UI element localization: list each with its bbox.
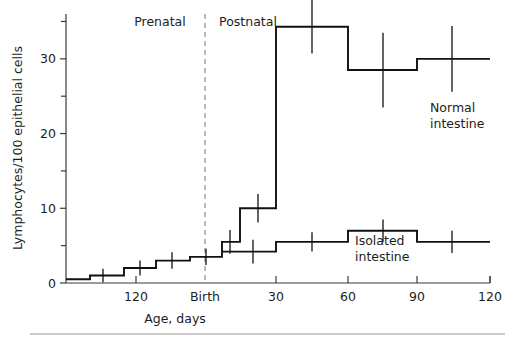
x-tick-label: 120 xyxy=(124,289,148,304)
chart-text-labels: PrenatalPostnatalNormalintestineIsolated… xyxy=(134,14,485,264)
x-axis-title: Age, days xyxy=(144,311,206,326)
x-tick-label: Birth xyxy=(190,289,220,304)
y-tick-label: 20 xyxy=(40,126,56,141)
normal-intestine-label: Normal xyxy=(430,100,475,115)
isolated-intestine-label: Isolated xyxy=(355,233,405,248)
y-tick-label: 0 xyxy=(48,276,56,291)
data-series xyxy=(66,27,490,280)
x-tick-label: 60 xyxy=(340,289,356,304)
x-tick-label: 30 xyxy=(268,289,284,304)
normal-intestine-label: intestine xyxy=(430,116,485,131)
postnatal-label: Postnatal xyxy=(219,14,277,29)
x-axis: 120Birth306090120Age, days xyxy=(66,276,502,326)
y-tick-label: 30 xyxy=(40,51,56,66)
isolated-intestine-label: intestine xyxy=(355,249,410,264)
x-tick-label: 120 xyxy=(478,289,502,304)
prenatal-label: Prenatal xyxy=(134,14,186,29)
lymphocyte-step-chart: 0102030Lymphocytes/100 epithelial cells … xyxy=(0,0,522,342)
x-tick-label: 90 xyxy=(409,289,425,304)
y-axis: 0102030Lymphocytes/100 epithelial cells xyxy=(10,14,66,291)
y-axis-title: Lymphocytes/100 epithelial cells xyxy=(10,46,25,250)
y-tick-label: 10 xyxy=(40,201,56,216)
figure-container: 0102030Lymphocytes/100 epithelial cells … xyxy=(0,0,522,342)
